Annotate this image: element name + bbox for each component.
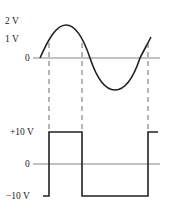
label-0-top: 0: [25, 53, 30, 63]
label-plus10v: +10 V: [10, 127, 34, 137]
sine-wave: [40, 25, 151, 90]
label-0-bottom: 0: [25, 159, 30, 169]
label-1v: 1 V: [5, 34, 19, 44]
waveform-diagram: 2 V 1 V 0 +10 V 0 −10 V: [0, 0, 169, 214]
label-2v: 2 V: [5, 16, 19, 26]
label-minus10v: −10 V: [6, 191, 30, 201]
